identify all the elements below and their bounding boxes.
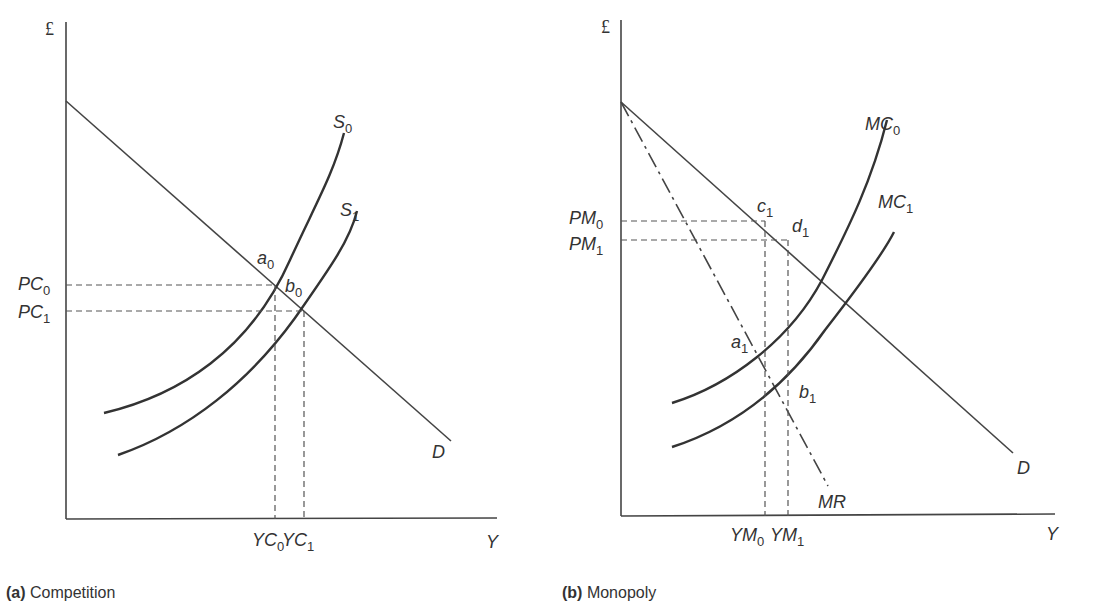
caption-letter-a: (a) — [6, 584, 26, 601]
y-axis-label-b: £ — [601, 17, 610, 37]
x-axis-label-a: Y — [486, 532, 500, 552]
supply-curve-s0 — [104, 133, 344, 413]
label-point-d1: d1 — [792, 216, 809, 240]
diagram-canvas: £ Y S0 S1 D a0 b0 PC0 PC1 YC0 YC1 £ Y — [0, 0, 1112, 611]
label-demand-b: D — [1017, 458, 1030, 478]
tick-yc1: YC1 — [282, 530, 314, 554]
label-demand-a: D — [432, 442, 445, 462]
x-axis-b — [621, 514, 1055, 516]
x-axis-label-b: Y — [1046, 524, 1060, 544]
label-point-c1: c1 — [757, 196, 773, 220]
caption-text-b: Monopoly — [587, 584, 656, 601]
label-mc1: MC1 — [878, 192, 913, 216]
tick-pm1: PM1 — [569, 234, 603, 258]
label-s0: S0 — [333, 112, 352, 136]
label-mr: MR — [818, 492, 846, 512]
tick-yc0: YC0 — [252, 530, 284, 554]
panel-monopoly: £ Y MC0 MC1 D MR c1 d1 a1 b1 PM0 PM1 YM0… — [569, 17, 1060, 549]
marginal-revenue-curve — [621, 102, 828, 486]
label-point-a0: a0 — [257, 248, 274, 272]
tick-pc0: PC0 — [18, 274, 50, 298]
tick-pm0: PM0 — [569, 208, 603, 232]
marginal-cost-curve-mc0 — [672, 120, 887, 403]
supply-curve-s1 — [118, 211, 357, 455]
caption-monopoly: (b) Monopoly — [562, 584, 656, 602]
label-s1: S1 — [340, 200, 359, 224]
panel-competition: £ Y S0 S1 D a0 b0 PC0 PC1 YC0 YC1 — [18, 19, 500, 554]
y-axis-label-a: £ — [45, 19, 54, 39]
caption-letter-b: (b) — [562, 584, 582, 601]
x-axis-a — [66, 518, 497, 519]
tick-ym0: YM0 — [730, 525, 764, 549]
label-point-a1: a1 — [731, 332, 748, 356]
caption-competition: (a) Competition — [6, 584, 115, 602]
label-point-b1: b1 — [799, 382, 816, 406]
tick-ym1: YM1 — [770, 525, 804, 549]
caption-text-a: Competition — [30, 584, 115, 601]
demand-curve-a — [66, 101, 451, 441]
marginal-cost-curve-mc1 — [672, 232, 894, 447]
tick-pc1: PC1 — [18, 302, 50, 326]
